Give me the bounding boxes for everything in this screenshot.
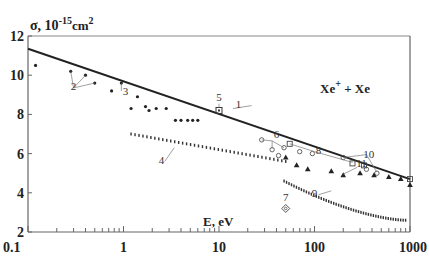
dash-point	[306, 190, 307, 193]
dash-point	[321, 197, 322, 200]
circle-point	[276, 153, 280, 157]
series-7	[282, 204, 290, 212]
dash-point	[350, 208, 351, 211]
dash-point	[291, 183, 292, 186]
leader-line-11	[343, 167, 357, 174]
dash-point	[323, 198, 324, 201]
dash-point	[402, 219, 403, 222]
leader-line-2	[74, 83, 95, 88]
dash-point	[368, 213, 369, 216]
dash-point	[286, 181, 287, 184]
triangle-point	[283, 155, 289, 160]
dash-point	[273, 158, 274, 161]
triangle-point	[329, 168, 335, 173]
dash-point	[257, 155, 258, 158]
dash-point	[340, 205, 341, 208]
dash-point	[249, 154, 250, 157]
y-tick-label: 10	[10, 68, 24, 83]
dot-point	[129, 107, 132, 110]
dash-point	[348, 207, 349, 210]
dash-point	[230, 150, 231, 153]
reaction-label: Xe+ + Xe	[320, 78, 370, 96]
triangle-point	[371, 172, 377, 177]
dash-point	[233, 151, 234, 154]
y-tick-label: 8	[17, 107, 24, 122]
dash-point	[253, 154, 254, 157]
dot-point	[144, 105, 147, 108]
dash-point	[345, 206, 346, 209]
dash-point	[218, 148, 219, 151]
dash-point	[353, 209, 354, 212]
dot-point	[179, 119, 182, 122]
dash-point	[269, 157, 270, 160]
dash-point	[206, 146, 207, 149]
dash-point	[355, 209, 356, 212]
dash-point	[370, 213, 371, 216]
x-tick-label: 0.1	[3, 240, 21, 255]
series-label-11: 11	[356, 157, 367, 169]
dash-point	[261, 156, 262, 159]
series-11	[283, 155, 413, 187]
dash-point	[198, 144, 199, 147]
dot-point	[165, 107, 168, 110]
leader-line-4	[165, 148, 175, 162]
triangle-point	[305, 166, 311, 171]
dash-point	[375, 215, 376, 218]
dash-point	[138, 134, 139, 137]
dash-point	[237, 151, 238, 154]
dash-point	[214, 147, 215, 150]
dot-point	[191, 119, 194, 122]
series-label-8: 8	[316, 144, 322, 156]
dot-point	[196, 119, 199, 122]
x-tick-label: 10	[212, 240, 226, 255]
dash-point	[308, 192, 309, 195]
series-label-4: 4	[159, 154, 165, 166]
dash-point	[288, 182, 289, 185]
triangle-point	[386, 174, 392, 179]
triangle-point	[294, 162, 300, 167]
dash-point	[142, 135, 143, 138]
dash-point	[174, 140, 175, 143]
dash-point	[134, 133, 135, 136]
dash-point	[186, 142, 187, 145]
dot-point	[174, 119, 177, 122]
dash-point	[154, 137, 155, 140]
dash-point	[318, 196, 319, 199]
dash-point	[335, 203, 336, 206]
dash-point	[158, 137, 159, 140]
dash-point	[277, 159, 278, 162]
dash-point	[385, 217, 386, 220]
dash-point	[293, 185, 294, 188]
dash-point	[378, 215, 379, 218]
series-2	[34, 64, 96, 85]
series-4	[130, 133, 286, 163]
y-tick-label: 4	[17, 186, 24, 201]
dash-point	[303, 189, 304, 192]
dash-point	[166, 139, 167, 142]
diamond-point	[282, 204, 290, 212]
dash-point	[296, 186, 297, 189]
plot-frame	[28, 36, 410, 232]
series-label-9: 9	[312, 187, 318, 199]
dash-point	[283, 180, 284, 183]
dash-point	[333, 202, 334, 205]
dash-point	[162, 138, 163, 141]
dash-point	[395, 218, 396, 221]
dot-point	[147, 109, 150, 112]
triangle-point	[407, 182, 413, 187]
dash-point	[285, 160, 286, 163]
series-label-6: 6	[274, 128, 280, 140]
triangle-point	[357, 170, 363, 175]
dash-point	[365, 212, 366, 215]
dot-point	[186, 119, 189, 122]
x-axis-title: E, eV	[203, 214, 234, 229]
dash-point	[241, 152, 242, 155]
dash-point	[281, 159, 282, 162]
dash-point	[338, 204, 339, 207]
dash-point	[380, 216, 381, 219]
leader-line-6	[272, 141, 284, 148]
dash-point	[360, 211, 361, 214]
dash-point	[393, 218, 394, 221]
y-tick-label: 2	[17, 225, 24, 240]
dash-point	[343, 205, 344, 208]
